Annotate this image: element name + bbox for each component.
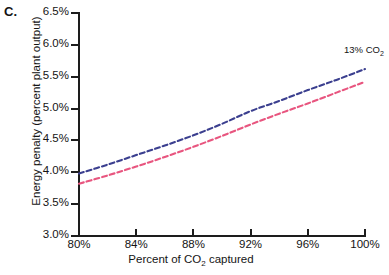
co2-concentration-annotation: 13% CO2 [344, 44, 384, 57]
annotation-subscript: 2 [380, 50, 384, 57]
annotation-text: 13% CO [344, 44, 380, 55]
lower-curve-pink [79, 82, 365, 184]
upper-curve-blue [79, 69, 365, 173]
